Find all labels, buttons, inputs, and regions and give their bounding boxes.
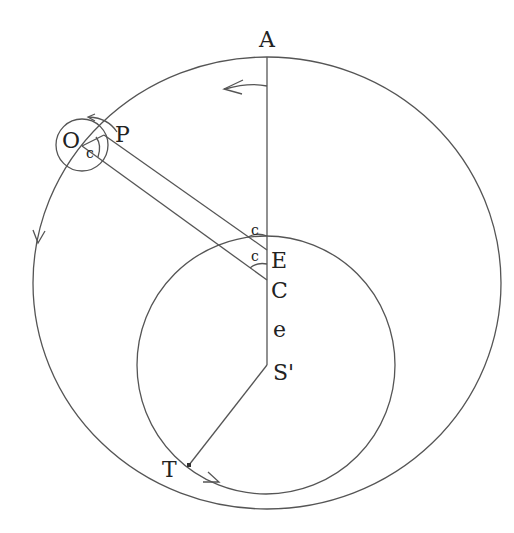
point-T: [187, 463, 191, 467]
strip-upper-line: [104, 135, 267, 250]
radius-line-S-T: [189, 365, 267, 465]
label-A: A: [258, 27, 276, 52]
label-T: T: [162, 457, 177, 482]
label-c-lower: c: [251, 248, 259, 264]
label-c-upper: c: [251, 222, 259, 238]
strip-lower-line: [82, 146, 267, 280]
label-c-O: c: [86, 145, 94, 161]
arrowhead-inner-T-icon: [203, 472, 219, 482]
label-O: O: [62, 128, 80, 153]
angle-arc-O-c: [96, 137, 100, 157]
label-E: E: [271, 248, 287, 273]
angle-arc-lower-c: [250, 264, 267, 269]
label-C: C: [271, 278, 288, 303]
label-S-prime: S': [273, 360, 294, 385]
label-P: P: [115, 122, 130, 147]
label-e: e: [273, 317, 286, 342]
diagram-canvas: A O P c c c E C e S' T: [0, 0, 514, 533]
inner-circle: [137, 236, 395, 494]
diagram-svg: A O P c c c E C e S' T: [0, 0, 514, 533]
